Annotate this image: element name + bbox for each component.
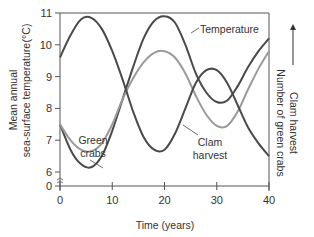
y-axis-title-left: Mean annual sea-surface temperature (°C) bbox=[7, 24, 32, 158]
up-arrow-head bbox=[290, 24, 296, 30]
annotation-label-temperature: Temperature bbox=[200, 23, 259, 35]
chart: Mean annual sea-surface temperature (°C)… bbox=[0, 0, 314, 237]
y-tick-label: 11 bbox=[41, 7, 52, 19]
y-axis-title-right-line-1: Clam harvest bbox=[288, 92, 300, 154]
y-axis-title-line-2: sea-surface temperature bbox=[20, 43, 32, 158]
x-tick-label: 0 bbox=[57, 194, 63, 206]
annotation-leader-temperature bbox=[191, 28, 199, 33]
x-axis-title: Time (years) bbox=[136, 219, 195, 231]
y-tick-label: 7 bbox=[46, 134, 52, 146]
annotation-label-green-crabs-line-2: crabs bbox=[80, 147, 106, 159]
annotation-leader-clam-harvest bbox=[183, 125, 198, 135]
y-tick-label: 8 bbox=[46, 102, 52, 114]
y-axis-title-right: Clam harvest Number of green crabs bbox=[275, 24, 300, 177]
y-axis-title-unit: (°C) bbox=[20, 24, 32, 43]
annotation-label-clam-harvest-line-2: harvest bbox=[193, 149, 228, 161]
x-tick-label: 30 bbox=[211, 194, 223, 206]
y-axis-title-right-line-2: Number of green crabs bbox=[275, 69, 287, 176]
y-axis-title-line-1: Mean annual bbox=[7, 70, 19, 131]
x-tick-label: 20 bbox=[158, 194, 170, 206]
y-tick-label: 0 bbox=[46, 180, 52, 192]
x-tick-label: 40 bbox=[263, 194, 275, 206]
y-tick-label: 6 bbox=[46, 166, 52, 178]
annotation-label-clam-harvest: Clam bbox=[198, 136, 223, 148]
y-tick-label: 9 bbox=[46, 71, 52, 83]
x-tick-label: 10 bbox=[106, 194, 118, 206]
y-tick-label: 10 bbox=[40, 39, 52, 51]
annotation-label-green-crabs: Green bbox=[78, 134, 107, 146]
